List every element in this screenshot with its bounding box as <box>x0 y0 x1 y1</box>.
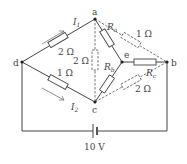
label-node-d: d <box>13 58 19 68</box>
node-b <box>165 60 168 63</box>
resistor-Rb <box>99 75 114 93</box>
label-resistor-da: 2 Ω <box>58 47 74 57</box>
node-e <box>120 60 123 63</box>
label-node-a: a <box>92 7 98 17</box>
label-resistor-ab: 1 Ω <box>136 29 152 39</box>
label-resistor-ac: 2 Ω <box>73 56 89 66</box>
label-Rc: Rc <box>145 68 157 79</box>
dashed-resistor-ac <box>92 50 98 70</box>
resistor-Rc <box>134 59 156 65</box>
label-node-b: b <box>171 58 177 68</box>
current-arrow-i2 <box>42 88 64 100</box>
node-d <box>20 60 23 63</box>
label-node-e: e <box>124 50 129 60</box>
circuit-diagram: a b c d e I1 I2 2 Ω 1 Ω 2 Ω 1 Ω 2 Ω Ra R… <box>0 0 187 164</box>
label-battery: 10 V <box>84 142 105 152</box>
node-a <box>93 17 96 20</box>
label-Ra: Ra <box>106 22 118 33</box>
label-Rb: Rb <box>103 62 115 73</box>
label-node-c: c <box>92 105 97 115</box>
label-i1: I1 <box>72 17 80 28</box>
label-resistor-cb: 2 Ω <box>135 84 151 94</box>
label-i2: I2 <box>70 102 79 113</box>
node-c <box>93 100 96 103</box>
circuit-svg: a b c d e I1 I2 2 Ω 1 Ω 2 Ω 1 Ω 2 Ω Ra R… <box>0 0 187 164</box>
wire-right-bottom <box>98 62 167 131</box>
label-resistor-dc: 1 Ω <box>57 68 73 78</box>
